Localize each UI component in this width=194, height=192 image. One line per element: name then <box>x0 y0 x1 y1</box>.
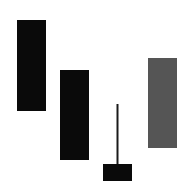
candle-1-body <box>17 20 46 111</box>
candle-1 <box>17 20 46 111</box>
candle-2 <box>60 70 89 160</box>
candlestick-chart <box>0 0 194 192</box>
candle-3 <box>103 104 132 181</box>
candle-4-body <box>148 58 177 148</box>
candle-4 <box>148 58 177 148</box>
candle-3-body <box>103 164 132 181</box>
candle-2-body <box>60 70 89 160</box>
